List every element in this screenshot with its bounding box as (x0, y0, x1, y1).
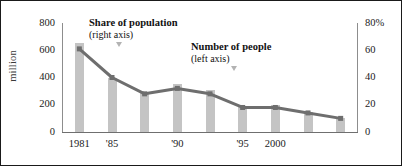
annotation-subtitle: (right axis) (89, 29, 178, 41)
line-marker (208, 91, 213, 96)
left-axis-tick: 800 (21, 18, 55, 29)
line-marker (338, 116, 343, 121)
annotation-share-of-population: Share of population (right axis) (89, 17, 178, 40)
annotation-subtitle: (left axis) (191, 53, 271, 65)
down-triangle-icon (231, 66, 237, 71)
right-axis-tick: 0 (365, 127, 402, 138)
y-axis-title: million (7, 50, 19, 82)
annotation-title: Number of people (191, 41, 271, 53)
line-marker (240, 105, 245, 110)
line-marker (110, 75, 115, 80)
chart-frame: million 0200400600800 020406080% 1981'85… (0, 0, 402, 166)
x-axis-tick: 1981 (69, 139, 90, 150)
annotation-number-of-people: Number of people (left axis) (191, 41, 271, 64)
line-marker (273, 105, 278, 110)
right-axis-tick: 40 (365, 72, 402, 83)
left-axis-tick: 200 (21, 99, 55, 110)
right-axis-tick: 20 (365, 99, 402, 110)
line-marker (142, 91, 147, 96)
x-axis-tick: '85 (106, 139, 118, 150)
left-axis-tick: 0 (21, 127, 55, 138)
line-marker (306, 110, 311, 115)
x-axis-line (62, 132, 358, 133)
left-axis-tick: 400 (21, 72, 55, 83)
down-triangle-icon (116, 42, 122, 47)
x-axis-tick: '95 (236, 139, 248, 150)
line-marker (175, 86, 180, 91)
line-marker (77, 46, 82, 51)
right-axis-line (357, 23, 358, 133)
left-axis-tick: 600 (21, 45, 55, 56)
x-axis-tick: '90 (171, 139, 183, 150)
annotation-title: Share of population (89, 17, 178, 29)
right-axis-tick: 80% (365, 18, 402, 29)
right-axis-tick: 60 (365, 45, 402, 56)
x-axis-tick: 2000 (265, 139, 286, 150)
